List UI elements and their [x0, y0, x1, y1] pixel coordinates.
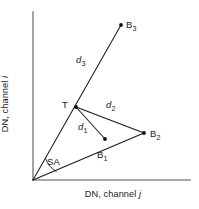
x-axis-label: DN, channel j — [85, 190, 141, 199]
spectral-angle-label: SA — [47, 157, 60, 167]
distance-label-d2-sub: 2 — [111, 104, 115, 113]
point-label-b2: B2 — [150, 129, 161, 141]
point-label-b3-sub: 3 — [132, 24, 136, 33]
point-dot-b1 — [103, 137, 107, 141]
distance-label-d3-sub: 3 — [81, 59, 85, 68]
spectral-angle-diagram: DN, channel i DN, channel j T B1 B2 B3 d… — [0, 0, 199, 209]
point-label-t-text: T — [62, 99, 68, 110]
point-label-b2-sub: 2 — [156, 133, 160, 142]
point-label-b1-sub: 1 — [103, 154, 107, 163]
point-dot-t — [74, 105, 78, 109]
point-dot-b3 — [119, 23, 123, 27]
distance-label-d2: d2 — [106, 100, 116, 112]
point-label-b1: B1 — [97, 150, 108, 162]
spectral-angle-label-text: SA — [47, 156, 60, 167]
diagram-canvas — [0, 0, 199, 209]
distance-label-d1-sub: 1 — [83, 126, 87, 135]
y-axis-label-symbol: i — [0, 76, 10, 78]
point-label-t: T — [62, 100, 68, 110]
y-axis-label: DN, channel i — [1, 76, 10, 132]
distance-label-d3: d3 — [76, 55, 86, 67]
x-axis-label-text: DN, channel — [85, 189, 139, 199]
x-axis-label-symbol: j — [139, 189, 141, 199]
point-label-b3: B3 — [126, 20, 137, 32]
y-axis-label-text: DN, channel — [0, 78, 10, 132]
point-dot-b2 — [142, 131, 146, 135]
distance-label-d1: d1 — [78, 122, 88, 134]
